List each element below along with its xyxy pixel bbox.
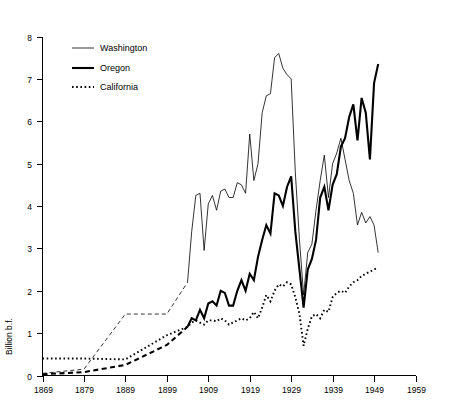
y-tick-label: 6 [27, 117, 32, 127]
y-tick-label: 2 [27, 287, 32, 297]
legend-label-california: California [100, 82, 138, 92]
x-tick-label: 1899 [158, 385, 177, 395]
y-tick-label: 5 [27, 160, 32, 170]
y-tick-label: 4 [27, 202, 32, 212]
y-tick-labels: 012345678 [27, 33, 32, 382]
x-tick-label: 1959 [407, 385, 426, 395]
x-tick-label: 1929 [282, 385, 301, 395]
x-tick-label: 1909 [199, 385, 218, 395]
y-tick-label: 8 [27, 33, 32, 43]
chart-legend: WashingtonOregonCalifornia [72, 43, 147, 92]
x-tick-label: 1879 [75, 385, 94, 395]
x-tick-marks [44, 376, 417, 382]
chart-container: 012345678 Billion b.f. 18691879188918991… [0, 0, 455, 408]
x-tick-label: 1919 [241, 385, 260, 395]
x-tick-labels: 1869187918891899190919191929193919491959 [34, 385, 426, 395]
y-tick-label: 7 [27, 75, 32, 85]
data-series-layer [43, 53, 379, 374]
legend-label-washington: Washington [100, 43, 147, 53]
lumber-production-line-chart: 012345678 Billion b.f. 18691879188918991… [0, 0, 455, 408]
y-tick-label: 3 [27, 244, 32, 254]
x-tick-label: 1939 [324, 385, 343, 395]
y-axis: 012345678 Billion b.f. [4, 33, 43, 382]
series-line-california [43, 267, 379, 359]
x-tick-label: 1889 [116, 385, 135, 395]
y-tick-label: 0 [27, 372, 32, 382]
y-axis-title: Billion b.f. [4, 318, 14, 355]
series-line-oregon-early [43, 327, 188, 374]
series-line-washington [188, 53, 379, 295]
x-axis: 1869187918891899190919191929193919491959 [34, 376, 426, 396]
x-tick-label: 1869 [34, 385, 53, 395]
y-tick-label: 1 [27, 329, 32, 339]
series-line-oregon [188, 64, 379, 327]
y-tick-marks [37, 38, 43, 377]
legend-label-oregon: Oregon [100, 63, 130, 73]
x-tick-label: 1949 [365, 385, 384, 395]
